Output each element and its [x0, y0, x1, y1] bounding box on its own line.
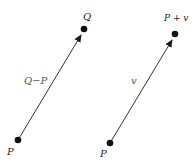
label-p-left: P: [7, 147, 14, 157]
vector-arrow-v: [110, 40, 172, 143]
point-p-plus-v: [172, 31, 179, 38]
point-q: [81, 26, 88, 33]
label-p-right: P: [100, 149, 107, 159]
vector-arrow-q-minus-p: [18, 35, 81, 140]
label-q: Q: [83, 12, 91, 22]
point-p-left: [15, 137, 22, 144]
label-v: v: [131, 76, 137, 86]
label-q-minus-p: Q−P: [24, 76, 47, 86]
point-p-right: [107, 140, 114, 147]
label-p-plus-v: P + v: [164, 14, 188, 23]
